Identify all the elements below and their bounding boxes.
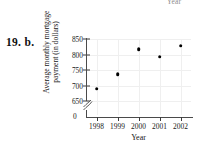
y-axis-title-line-2: payment (in dollars) — [51, 21, 61, 83]
data-point — [95, 87, 99, 91]
x-gridline — [97, 39, 98, 115]
x-tick-mark — [139, 117, 140, 121]
y-tick-label: 800 — [72, 50, 83, 59]
x-tick-label: 1998 — [89, 122, 104, 131]
y-axis-title: Average monthly mortgage payment (in dol… — [40, 0, 62, 104]
x-tick-mark — [181, 117, 182, 121]
y-axis-line — [86, 38, 87, 101]
exercise-number-label: 19. b. — [6, 36, 34, 48]
x-tick-label: 2001 — [152, 122, 167, 131]
previous-figure-axis-label-fragment: Year — [158, 0, 190, 8]
data-point — [137, 47, 141, 51]
x-gridline — [181, 39, 182, 115]
x-axis-title: Year — [86, 133, 191, 142]
axis-break-icon — [82, 100, 93, 111]
x-gridline — [160, 39, 161, 115]
x-axis-line — [86, 117, 193, 118]
data-point — [179, 44, 183, 48]
y-tick-label: 750 — [72, 66, 83, 75]
y-axis-zero-label: 0 — [73, 112, 77, 121]
x-gridline — [118, 39, 119, 115]
plot-area: 850800750700650 — [86, 39, 191, 101]
y-axis-line-lower-stub — [86, 110, 87, 117]
y-tick-label: 850 — [72, 35, 83, 44]
x-tick-mark — [97, 117, 98, 121]
data-point — [116, 72, 120, 76]
x-tick-label: 2000 — [131, 122, 146, 131]
data-point — [158, 55, 162, 59]
x-tick-label: 2002 — [173, 122, 188, 131]
x-tick-mark — [118, 117, 119, 121]
x-tick-mark — [160, 117, 161, 121]
scatter-plot: 850800750700650 0 Year 19981999200020012… — [63, 36, 191, 118]
x-tick-label: 1999 — [110, 122, 125, 131]
y-axis-title-line-1: Average monthly mortgage — [42, 11, 52, 94]
y-tick-label: 700 — [72, 81, 83, 90]
